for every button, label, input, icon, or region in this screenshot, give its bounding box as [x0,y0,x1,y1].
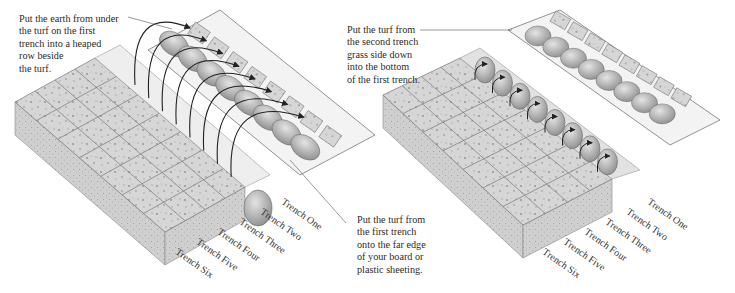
earth-mound [649,104,675,124]
inverted-turf [563,123,583,149]
inverted-turf [493,70,513,96]
inverted-turf [528,96,548,122]
inverted-turf [475,57,495,83]
right-top-caption: Put the turf from the second trench gras… [347,24,420,86]
left-bottom-caption: Put the turf from the first trench onto … [357,214,426,276]
inverted-turf [580,136,600,162]
inverted-turf [545,110,565,136]
inverted-turf [510,83,530,109]
left-top-caption: Put the earth from under the turf on the… [19,13,119,75]
inverted-turf [598,149,618,175]
